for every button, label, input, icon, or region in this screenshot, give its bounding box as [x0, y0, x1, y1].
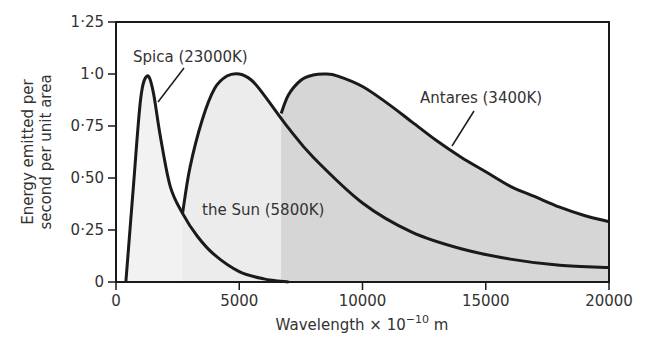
spica-leader-line — [158, 68, 184, 102]
y-tick-label: 0·25 — [71, 221, 104, 239]
y-tick-label: 0·50 — [71, 169, 104, 187]
blackbody-chart: 00·250·500·751·01·25 0500010000150002000… — [0, 0, 648, 362]
y-tick-label: 1·0 — [80, 65, 104, 83]
x-tick-label: 5000 — [220, 292, 258, 310]
y-tick-label: 0 — [94, 273, 104, 291]
x-axis-ticks: 05000100001500020000 — [111, 282, 633, 310]
y-axis-title-line-1: Energy emitted per — [19, 78, 37, 224]
y-tick-label: 1·25 — [71, 13, 104, 31]
sun-label: the Sun (5800K) — [202, 201, 324, 219]
x-axis-title: Wavelength × 10−10 m — [276, 313, 449, 334]
antares-label: Antares (3400K) — [420, 89, 542, 107]
y-axis-ticks: 00·250·500·751·01·25 — [71, 13, 116, 291]
y-axis-title-line-2: second per unit area — [37, 74, 55, 229]
x-tick-label: 15000 — [462, 292, 510, 310]
antares-leader-line — [452, 111, 474, 146]
y-axis-title: Energy emitted per second per unit area — [19, 74, 55, 229]
x-tick-label: 0 — [111, 292, 121, 310]
x-tick-label: 20000 — [585, 292, 633, 310]
y-tick-label: 0·75 — [71, 117, 104, 135]
spica-label: Spica (23000K) — [133, 48, 248, 66]
x-tick-label: 10000 — [339, 292, 387, 310]
